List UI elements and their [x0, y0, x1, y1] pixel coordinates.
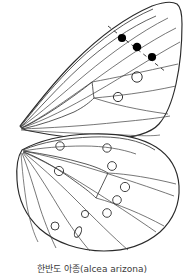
solid-spot-3: [148, 53, 156, 61]
figure-root: 한반도 아종(alcea arizona): [0, 0, 184, 273]
forewing-outline: [20, 2, 182, 139]
butterfly-wing-venation-diagram: [0, 0, 184, 256]
hindwing-group: [17, 134, 179, 251]
solid-spot-1: [118, 34, 126, 42]
figure-caption-text: 한반도 아종(alcea arizona): [37, 264, 147, 273]
solid-spot-2: [133, 43, 142, 52]
hindwing-outline: [17, 134, 179, 251]
figure-caption: 한반도 아종(alcea arizona): [0, 258, 184, 273]
forewing-group: [20, 2, 182, 139]
